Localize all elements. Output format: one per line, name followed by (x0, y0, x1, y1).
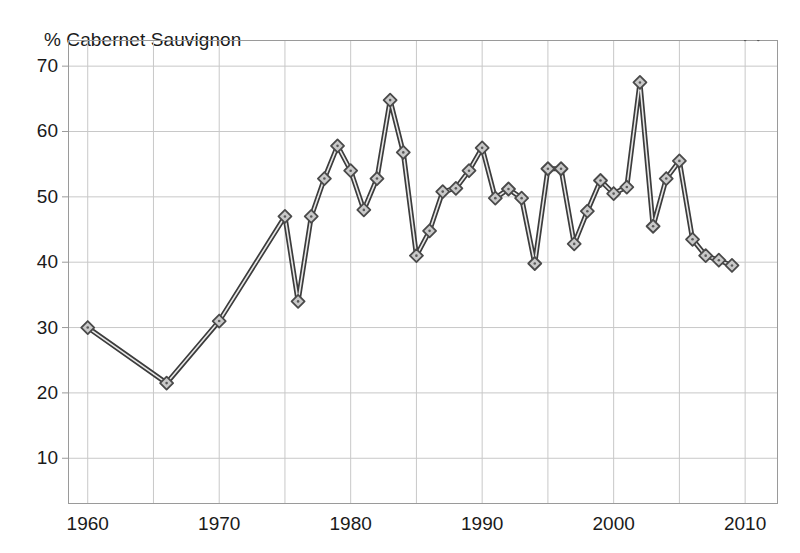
x-tick-label: 1960 (67, 513, 109, 535)
y-tick-label: 60 (12, 120, 58, 142)
x-tick-label: 2000 (593, 513, 635, 535)
y-tick-label: 50 (12, 186, 58, 208)
y-tick-label: 10 (12, 447, 58, 469)
y-tick-label: 70 (12, 55, 58, 77)
chart-figure: % Cabernet Sauvignon 10203040506070 1960… (0, 0, 800, 553)
plot-area: 10203040506070 196019701980199020002010 (68, 40, 778, 504)
x-tick-label: 2010 (724, 513, 766, 535)
y-tick-label: 40 (12, 251, 58, 273)
x-tick-label: 1980 (330, 513, 372, 535)
y-tick-label: 30 (12, 317, 58, 339)
x-tick-label: 1990 (461, 513, 503, 535)
x-axis-tick-labels: 196019701980199020002010 (68, 40, 778, 504)
y-tick-label: 20 (12, 382, 58, 404)
x-tick-label: 1970 (198, 513, 240, 535)
